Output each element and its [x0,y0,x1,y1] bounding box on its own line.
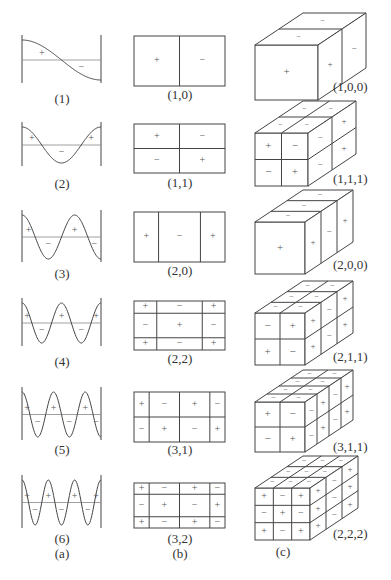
mode-label-c-1-0-0: (1,0,0) [333,80,368,94]
plus-sign: + [342,319,347,329]
plus-sign: + [192,516,198,527]
plus-sign: + [277,241,283,253]
minus-sign: − [280,525,286,536]
plus-sign: + [310,315,315,325]
plus-sign: + [347,481,352,491]
plus-sign: + [192,398,198,409]
minus-sign: − [283,385,288,394]
minus-sign: − [162,482,168,493]
plus-sign: + [24,310,30,321]
mode-label-c-1-1-1: (1,1,1) [333,172,368,186]
minus-sign: − [192,423,198,434]
minus-sign: − [289,407,295,419]
plus-sign: + [298,525,304,536]
plus-sign: + [347,464,352,474]
plus-sign: + [215,423,221,434]
plus-sign: + [139,398,145,409]
minus-sign: − [85,504,91,515]
minus-sign: − [199,54,205,65]
minus-sign: − [93,416,99,427]
minus-sign: − [280,490,286,501]
minus-sign: − [278,120,283,129]
plus-sign: + [344,406,349,416]
plus-sign: + [310,237,315,247]
minus-sign: − [177,300,183,311]
minus-sign: − [298,302,303,311]
plus-sign: + [341,143,346,153]
plus-sign: + [211,337,217,348]
minus-sign: − [320,16,325,25]
column-title-c: (c) [276,545,290,559]
minus-sign: − [332,414,337,424]
minus-sign: − [67,416,73,427]
minus-sign: − [308,405,313,415]
plus-sign: + [139,516,145,527]
plus-sign: + [289,319,295,331]
minus-sign: − [331,509,336,519]
mode-label-b-3-2: (3,2) [168,532,193,546]
plus-sign: + [72,224,78,235]
minus-sign: − [215,516,221,527]
minus-sign: − [78,324,84,335]
minus-sign: − [323,467,328,476]
mode-label-a-2: (2) [54,177,69,191]
plus-sign: + [265,139,271,151]
column-title-a: (a) [55,547,69,561]
minus-sign: − [32,504,38,515]
minus-sign: − [331,492,336,502]
plus-sign: + [315,520,320,530]
minus-sign: − [317,159,322,169]
minus-sign: − [304,120,309,129]
plus-sign: + [72,490,78,501]
plus-sign: + [93,310,99,321]
plus-sign: + [280,507,286,518]
minus-sign: − [199,130,205,141]
plus-sign: + [88,132,94,143]
plus-sign: + [59,310,65,321]
minus-sign: − [270,477,275,486]
plus-sign: + [344,381,349,391]
plus-sign: + [264,345,270,357]
minus-sign: − [215,398,221,409]
minus-sign: − [143,319,149,330]
plus-sign: + [24,402,30,413]
plus-sign: + [310,341,315,351]
minus-sign: − [307,477,312,486]
mode-label-b-2-2: (2,2) [168,352,193,366]
plus-sign: + [143,300,149,311]
plus-sign: + [342,215,347,225]
minus-sign: − [298,507,304,518]
minus-sign: − [162,516,168,527]
minus-sign: − [265,165,271,177]
minus-sign: − [177,230,183,241]
minus-sign: − [292,139,298,151]
minus-sign: − [302,104,307,113]
plus-sign: + [192,482,198,493]
plus-sign: + [215,499,221,510]
plus-sign: + [261,525,267,536]
minus-sign: − [192,499,198,510]
mode-label-a-3: (3) [54,267,69,281]
mode-label-a-1: (1) [54,92,69,106]
plus-sign: + [177,319,183,330]
plus-sign: + [261,490,267,501]
minus-sign: − [286,467,291,476]
minus-sign: − [264,319,270,331]
minus-sign: − [302,456,307,465]
plus-sign: + [26,224,32,235]
minus-sign: − [320,377,325,386]
minus-sign: − [154,154,160,165]
plus-sign: + [46,490,52,501]
mode-label-a-4: (4) [54,355,69,369]
plus-sign: + [162,423,168,434]
minus-sign: − [308,385,313,394]
minus-sign: − [296,393,301,402]
plus-sign: + [298,490,304,501]
plus-sign: + [24,490,30,501]
minus-sign: − [59,504,65,515]
plus-sign: + [292,165,298,177]
minus-sign: − [296,32,301,41]
plus-sign: + [39,47,45,58]
plus-sign: + [327,59,332,69]
plus-sign: + [315,503,320,513]
